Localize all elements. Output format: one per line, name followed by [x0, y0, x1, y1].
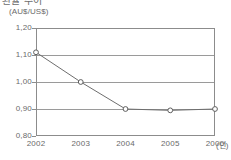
- y-axis-tick-mark: [32, 136, 36, 137]
- series-markers: [34, 50, 218, 113]
- y-axis-tick-label: 1,10: [16, 50, 32, 59]
- x-axis-tick-label: 2002: [27, 139, 46, 148]
- x-axis-unit-label: (년): [216, 139, 228, 150]
- data-point-marker: [34, 50, 39, 55]
- x-axis-tick-label: 2004: [116, 139, 135, 148]
- data-series-layer: [36, 28, 215, 136]
- data-point-marker: [123, 107, 128, 112]
- series-line: [36, 52, 215, 110]
- x-axis-tick-label: 2005: [161, 139, 180, 148]
- y-axis-tick-label: 1,00: [16, 77, 32, 86]
- line-chart: 0,800,901,001,101,20 2002200320042005200…: [0, 0, 231, 160]
- data-point-marker: [78, 80, 83, 85]
- y-axis-tick-labels: 0,800,901,001,101,20: [0, 28, 32, 136]
- data-point-marker: [168, 108, 173, 113]
- x-axis-tick-labels: 20022003200420052006: [36, 139, 215, 153]
- x-axis-tick-label: 2003: [71, 139, 90, 148]
- y-axis-tick-label: 1,20: [16, 23, 32, 32]
- data-point-marker: [213, 107, 218, 112]
- y-axis-tick-label: 0,90: [16, 104, 32, 113]
